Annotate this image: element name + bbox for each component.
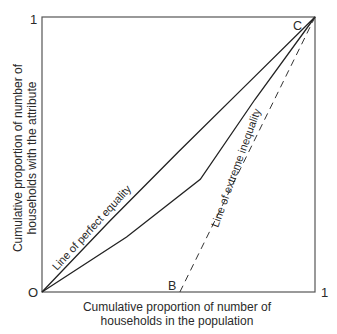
line-of-extreme-inequality [180, 17, 315, 292]
point-c-label: C [293, 19, 302, 33]
x-max-label: 1 [321, 285, 328, 300]
lorenz-curve-chart: 1 O 1 B C Line of perfect equality Line … [0, 0, 337, 334]
x-axis-title-line2: households in the population [101, 314, 254, 328]
y-axis-title-line1: Cumulative proportion of number of [11, 63, 25, 252]
point-b-label: B [168, 279, 176, 293]
line-of-perfect-equality [42, 17, 315, 292]
y-max-label: 1 [30, 12, 37, 27]
perfect-equality-annotation: Line of perfect equality [50, 182, 134, 272]
extreme-inequality-annotation: Line of extreme inequality [209, 106, 263, 228]
origin-label: O [28, 285, 38, 300]
y-axis-title-line2: households with the attribute [25, 81, 39, 234]
x-axis-title-line1: Cumulative proportion of number of [83, 300, 272, 314]
